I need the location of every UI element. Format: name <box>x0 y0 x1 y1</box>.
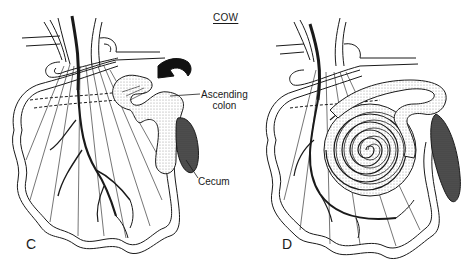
figure-title: COW <box>213 12 238 23</box>
cecum-shape-d <box>431 114 461 202</box>
panel-label-c: C <box>26 236 36 252</box>
ascending-colon-loop <box>113 75 184 174</box>
hidden-outline <box>30 92 120 100</box>
ascending-colon-label-line1: Ascending <box>201 89 248 100</box>
mesenteric-root-vessels <box>22 16 102 90</box>
panel-c-illustration <box>12 16 200 254</box>
rotation-arrow-icon <box>158 59 191 78</box>
mesenteric-artery <box>50 90 133 238</box>
ascending-colon-label: Ascending colon <box>201 89 248 111</box>
diagram-canvas <box>0 0 474 272</box>
cecum-shape <box>176 118 199 173</box>
panel-label-d: D <box>282 236 292 252</box>
mesenteric-root-vessels-d <box>276 18 346 100</box>
cecum-label: Cecum <box>198 176 230 187</box>
panel-d-illustration <box>266 18 460 259</box>
ascending-colon-label-line2: colon <box>201 100 248 111</box>
